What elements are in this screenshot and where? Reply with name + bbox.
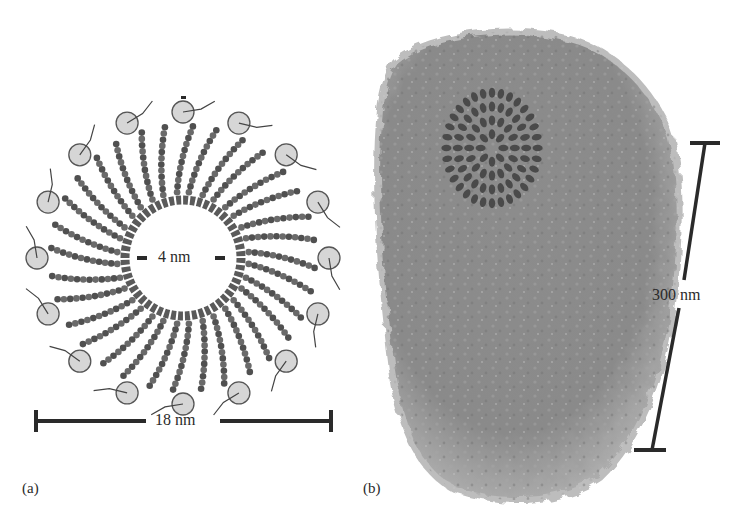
figure-canvas bbox=[0, 0, 748, 526]
panel-label-b: (b) bbox=[363, 480, 381, 497]
inner-scale-tick-right bbox=[215, 256, 225, 260]
inner-scale-tick-left bbox=[137, 256, 147, 260]
tube-length-label: 300 nm bbox=[652, 286, 700, 304]
ring-top-mark bbox=[181, 96, 186, 99]
panel-b-tube-structure bbox=[377, 32, 679, 500]
outer-diameter-label: 18 nm bbox=[155, 411, 195, 429]
inner-diameter-label: 4 nm bbox=[158, 248, 190, 266]
panel-label-a: (a) bbox=[22, 480, 39, 497]
truncated-caption bbox=[0, 516, 748, 526]
